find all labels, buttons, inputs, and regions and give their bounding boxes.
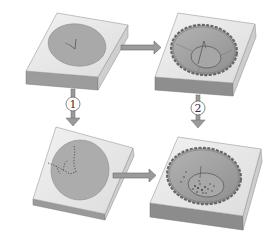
arrow-right-top bbox=[121, 41, 161, 54]
step-2-arrow: 2 bbox=[191, 95, 205, 128]
block-bottom-right bbox=[150, 137, 262, 230]
diagram-canvas: 1 2 bbox=[0, 0, 271, 239]
block-top-right bbox=[155, 13, 256, 96]
step-1-arrow: 1 bbox=[66, 89, 80, 126]
step-1-label: 1 bbox=[70, 98, 77, 111]
step-2-label: 2 bbox=[195, 102, 202, 115]
block-top-left bbox=[26, 13, 128, 90]
